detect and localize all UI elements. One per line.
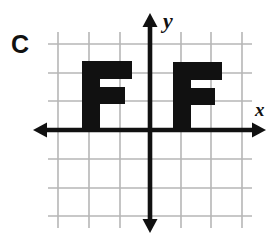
figure-label-c: C <box>11 32 29 57</box>
coordinate-plane-svg <box>0 0 279 237</box>
coordinate-plane-figure: C y x <box>0 0 279 237</box>
y-axis-label: y <box>163 10 173 32</box>
canvas-background <box>0 0 279 237</box>
x-axis-label: x <box>255 100 265 119</box>
